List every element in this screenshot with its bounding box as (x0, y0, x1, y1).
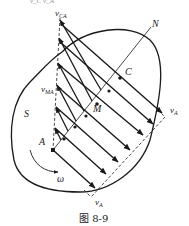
axis-an-line (53, 27, 151, 150)
label-vca: vCA (55, 8, 67, 19)
label-a: A (38, 136, 46, 147)
angular-velocity-arc (30, 150, 58, 172)
translation-velocity-arrows (53, 24, 162, 188)
label-va-right: vA (170, 105, 178, 116)
label-vma: vMA (41, 84, 54, 95)
label-m: M (92, 103, 102, 114)
velocity-distribution-diagram: v_C v_A vCA N C (0, 0, 189, 226)
label-va-bottom: vA (95, 197, 103, 208)
right-dashed-envelope (91, 117, 165, 197)
label-s: S (24, 108, 29, 119)
label-n: N (151, 18, 160, 29)
label-c: C (125, 66, 132, 77)
figure-caption: 图 8-9 (79, 213, 108, 224)
label-omega: ω (57, 173, 64, 184)
top-text-fragment: v_C v_A (30, 0, 55, 5)
